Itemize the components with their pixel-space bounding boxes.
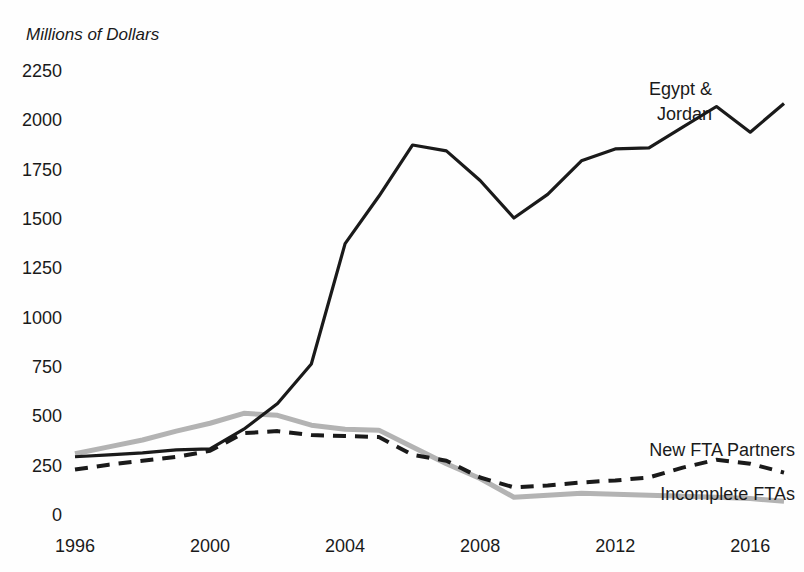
- y-tick-label: 750: [32, 357, 62, 377]
- series-label-egypt-jordan-line1: Egypt &: [649, 79, 712, 99]
- y-tick-label: 250: [32, 456, 62, 476]
- series-label-incomplete-ftas: Incomplete FTAs: [660, 484, 795, 504]
- y-tick-label: 2000: [22, 110, 62, 130]
- y-tick-label: 500: [32, 406, 62, 426]
- y-tick-label: 1500: [22, 209, 62, 229]
- x-tick-label: 2000: [190, 536, 230, 556]
- x-tick-label: 2016: [730, 536, 770, 556]
- y-tick-label: 2250: [22, 61, 62, 81]
- x-tick-label: 2012: [595, 536, 635, 556]
- y-tick-label: 1000: [22, 308, 62, 328]
- y-tick-label: 0: [52, 505, 62, 525]
- series-label-new-fta-partners: New FTA Partners: [649, 440, 795, 460]
- chart-figure: Millions of Dollars 02505007501000125015…: [0, 0, 804, 572]
- series-label-egypt-jordan-line2: Jordan: [657, 104, 712, 124]
- x-tick-label: 2008: [460, 536, 500, 556]
- y-tick-label: 1750: [22, 160, 62, 180]
- line-chart: Millions of Dollars 02505007501000125015…: [0, 0, 804, 572]
- chart-title: Millions of Dollars: [26, 25, 160, 44]
- x-tick-label: 2004: [325, 536, 365, 556]
- x-tick-label: 1996: [55, 536, 95, 556]
- y-tick-label: 1250: [22, 258, 62, 278]
